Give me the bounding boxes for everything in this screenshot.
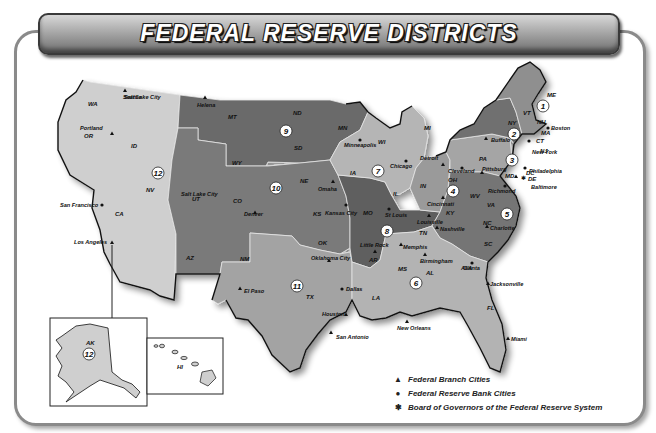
svg-text:TN: TN bbox=[419, 230, 428, 236]
legend-label: Federal Reserve Bank Cities bbox=[408, 389, 516, 398]
triangle-icon: ▲ bbox=[392, 375, 404, 384]
svg-text:Minneapolis: Minneapolis bbox=[344, 142, 376, 148]
svg-text:Memphis: Memphis bbox=[403, 244, 427, 250]
svg-text:Portland: Portland bbox=[80, 125, 103, 131]
svg-text:Atlanta: Atlanta bbox=[460, 265, 480, 271]
svg-text:10: 10 bbox=[272, 184, 281, 193]
district-marker-6: 6 bbox=[410, 277, 422, 289]
legend-item-board: ✱ Board of Governors of the Federal Rese… bbox=[392, 400, 602, 414]
svg-text:NE: NE bbox=[300, 178, 309, 184]
svg-text:LA: LA bbox=[372, 295, 380, 301]
svg-text:AR: AR bbox=[368, 257, 378, 263]
svg-text:OR: OR bbox=[84, 133, 94, 139]
svg-text:Birmingham: Birmingham bbox=[420, 258, 453, 264]
svg-text:Detroit: Detroit bbox=[420, 155, 439, 161]
svg-text:IL: IL bbox=[393, 191, 399, 197]
svg-text:Philadelphia: Philadelphia bbox=[529, 168, 562, 174]
district-marker-7: 7 bbox=[372, 165, 384, 177]
svg-text:New York: New York bbox=[532, 149, 558, 155]
salt-lake-city-label: Salt Lake City bbox=[181, 191, 219, 197]
svg-text:Charlotte: Charlotte bbox=[490, 225, 515, 231]
svg-text:Richmond: Richmond bbox=[488, 188, 516, 194]
svg-text:IN: IN bbox=[420, 183, 427, 189]
svg-text:Little Rock: Little Rock bbox=[360, 242, 389, 248]
svg-text:5: 5 bbox=[505, 210, 510, 219]
svg-text:WV: WV bbox=[470, 193, 481, 199]
svg-text:12: 12 bbox=[154, 169, 163, 178]
svg-text:MD: MD bbox=[505, 173, 515, 179]
seattle-label: Seattle bbox=[123, 94, 141, 100]
svg-text:TX: TX bbox=[306, 294, 315, 300]
district-marker-3: 3 bbox=[506, 154, 518, 166]
svg-text:OH: OH bbox=[448, 177, 458, 183]
svg-text:Cincinnati: Cincinnati bbox=[427, 201, 454, 207]
district-marker-12: 12 bbox=[152, 167, 164, 179]
svg-text:AZ: AZ bbox=[185, 255, 194, 261]
svg-text:AL: AL bbox=[425, 270, 434, 276]
svg-text:4: 4 bbox=[450, 187, 456, 196]
svg-text:12: 12 bbox=[85, 350, 94, 359]
district-marker-8: 8 bbox=[381, 225, 393, 237]
svg-text:SC: SC bbox=[484, 241, 493, 247]
svg-text:WY: WY bbox=[232, 160, 243, 166]
svg-text:WI: WI bbox=[378, 139, 386, 145]
district-marker-9: 9 bbox=[280, 125, 292, 137]
svg-text:WA: WA bbox=[88, 101, 98, 107]
svg-text:VA: VA bbox=[487, 202, 495, 208]
legend-label: Board of Governors of the Federal Reserv… bbox=[408, 403, 602, 412]
svg-text:VT: VT bbox=[523, 110, 532, 116]
svg-text:San Antonio: San Antonio bbox=[336, 334, 369, 340]
svg-text:8: 8 bbox=[385, 227, 390, 236]
svg-text:Denver: Denver bbox=[244, 211, 264, 217]
svg-text:NM: NM bbox=[240, 256, 250, 262]
svg-text:11: 11 bbox=[293, 282, 302, 291]
svg-text:Houston: Houston bbox=[322, 311, 345, 317]
svg-text:SD: SD bbox=[294, 145, 303, 151]
svg-text:FL: FL bbox=[487, 305, 495, 311]
svg-text:El Paso: El Paso bbox=[244, 288, 265, 294]
us-map: WA OR ID MT WY NV CA UT AZ CO NM ND SD N… bbox=[0, 0, 656, 433]
svg-text:Dallas: Dallas bbox=[346, 286, 362, 292]
svg-text:ID: ID bbox=[131, 143, 138, 149]
svg-text:New Orleans: New Orleans bbox=[397, 325, 431, 331]
svg-text:NV: NV bbox=[146, 187, 155, 193]
dot-icon: ● bbox=[392, 389, 404, 398]
svg-text:ND: ND bbox=[293, 110, 302, 116]
svg-text:NH: NH bbox=[537, 119, 546, 125]
svg-text:KY: KY bbox=[446, 210, 455, 216]
district-marker-4: 4 bbox=[447, 185, 459, 197]
svg-text:MA: MA bbox=[541, 130, 550, 136]
board-of-governors-icon: ✱ bbox=[521, 175, 526, 181]
svg-text:MT: MT bbox=[228, 114, 238, 120]
svg-text:3: 3 bbox=[510, 156, 515, 165]
svg-text:Baltimore: Baltimore bbox=[531, 184, 557, 190]
svg-text:HI: HI bbox=[177, 364, 183, 370]
svg-text:2: 2 bbox=[511, 130, 517, 139]
district-12-region bbox=[58, 80, 180, 300]
svg-text:Jacksonville: Jacksonville bbox=[490, 281, 523, 287]
svg-text:Chicago: Chicago bbox=[390, 163, 413, 169]
svg-text:San Francisco: San Francisco bbox=[60, 202, 99, 208]
svg-text:Helena: Helena bbox=[197, 102, 215, 108]
hawaii-inset: HI bbox=[147, 338, 223, 394]
map-legend: ▲ Federal Branch Cities ● Federal Reserv… bbox=[392, 372, 602, 414]
svg-text:AK: AK bbox=[85, 340, 95, 346]
svg-text:NY: NY bbox=[508, 120, 517, 126]
svg-text:Omaha: Omaha bbox=[318, 186, 337, 192]
svg-text:KS: KS bbox=[313, 211, 321, 217]
svg-text:7: 7 bbox=[376, 167, 381, 176]
svg-text:Oklahoma City: Oklahoma City bbox=[311, 255, 351, 261]
svg-text:Cleveland: Cleveland bbox=[448, 168, 475, 174]
svg-text:IA: IA bbox=[350, 170, 356, 176]
svg-text:MO: MO bbox=[363, 210, 373, 216]
legend-label: Federal Branch Cities bbox=[408, 375, 490, 384]
svg-text:OK: OK bbox=[318, 240, 328, 246]
svg-text:Buffalo: Buffalo bbox=[491, 137, 511, 143]
asterisk-icon: ✱ bbox=[392, 403, 404, 412]
legend-item-branch: ▲ Federal Branch Cities bbox=[392, 372, 602, 386]
svg-text:CT: CT bbox=[536, 138, 545, 144]
svg-text:CA: CA bbox=[115, 211, 124, 217]
svg-text:Kansas City: Kansas City bbox=[325, 210, 358, 216]
svg-text:Boston: Boston bbox=[551, 125, 571, 131]
svg-text:DE: DE bbox=[528, 176, 537, 182]
